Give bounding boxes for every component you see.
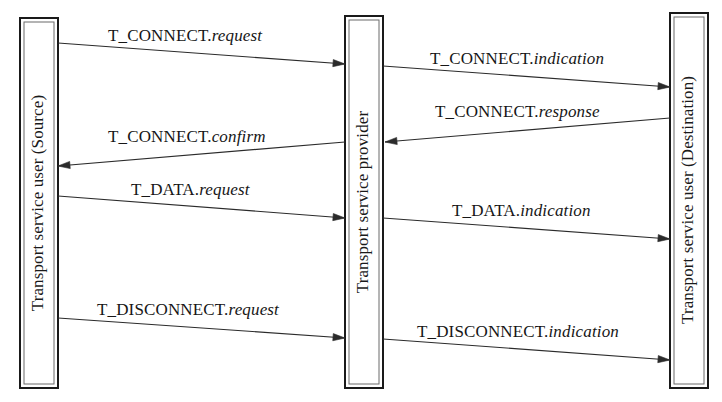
message-arrowhead-t-data-request — [333, 213, 345, 220]
message-label-t-connect-indication: T_CONNECT.indication — [430, 50, 604, 67]
message-t-disconnect-indication — [383, 339, 670, 363]
message-arrowhead-t-data-indication — [658, 235, 670, 242]
message-t-data-request — [58, 196, 345, 221]
message-primitive-t-connect-response: T_CONNECT. — [435, 102, 539, 121]
message-label-t-connect-confirm: T_CONNECT.confirm — [108, 128, 266, 145]
message-label-t-connect-request: T_CONNECT.request — [108, 27, 262, 44]
entity-source-label: Transport service user (Source) — [28, 95, 47, 311]
message-primitive-t-data-request: T_DATA. — [131, 180, 199, 199]
message-primitive-t-data-indication: T_DATA. — [452, 201, 520, 220]
message-arrowhead-t-disconnect-indication — [658, 356, 670, 363]
message-label-t-data-request: T_DATA.request — [131, 181, 250, 198]
message-t-data-indication — [383, 218, 670, 242]
message-label-t-disconnect-indication: T_DISCONNECT.indication — [417, 323, 619, 340]
message-line-t-connect-request — [58, 43, 345, 64]
message-line-t-data-indication — [383, 218, 670, 239]
message-parameter-t-connect-confirm: confirm — [212, 127, 266, 146]
message-parameter-t-connect-request: request — [212, 26, 262, 45]
message-primitive-t-connect-request: T_CONNECT. — [108, 26, 212, 45]
message-t-disconnect-request — [58, 318, 345, 341]
message-primitive-t-connect-indication: T_CONNECT. — [430, 49, 534, 68]
message-parameter-t-disconnect-request: request — [229, 300, 279, 319]
message-line-t-connect-indication — [383, 66, 670, 87]
message-line-t-data-request — [58, 196, 345, 218]
message-parameter-t-connect-response: response — [539, 102, 600, 121]
message-primitive-t-disconnect-indication: T_DISCONNECT. — [417, 322, 549, 341]
message-t-connect-request — [58, 43, 345, 67]
entity-destination-label: Transport service user (Destination) — [678, 76, 697, 324]
message-arrowhead-t-disconnect-request — [333, 334, 345, 341]
diagram-canvas: Transport service user (Source) Transpor… — [0, 0, 722, 402]
message-primitive-t-disconnect-request: T_DISCONNECT. — [97, 300, 229, 319]
message-line-t-connect-response — [385, 118, 670, 142]
message-t-connect-response — [385, 118, 670, 145]
message-parameter-t-disconnect-indication: indication — [549, 322, 619, 341]
message-arrowhead-t-connect-confirm — [58, 161, 70, 168]
entity-destination: Transport service user (Destination) — [670, 13, 708, 388]
message-parameter-t-data-request: request — [199, 180, 249, 199]
message-label-t-connect-response: T_CONNECT.response — [435, 103, 600, 120]
message-label-t-disconnect-request: T_DISCONNECT.request — [97, 301, 279, 318]
message-parameter-t-connect-indication: indication — [534, 49, 604, 68]
message-primitive-t-connect-confirm: T_CONNECT. — [108, 127, 212, 146]
entity-source: Transport service user (Source) — [20, 18, 58, 388]
message-arrowhead-t-connect-request — [333, 60, 345, 67]
message-parameter-t-data-indication: indication — [520, 201, 590, 220]
message-arrowhead-t-connect-response — [385, 137, 397, 144]
message-line-t-disconnect-indication — [383, 339, 670, 360]
message-line-t-disconnect-request — [58, 318, 345, 338]
message-arrowhead-t-connect-indication — [658, 83, 670, 90]
message-label-t-data-indication: T_DATA.indication — [452, 202, 591, 219]
sequence-diagram: Transport service user (Source) Transpor… — [0, 0, 722, 402]
entity-provider: Transport service provider — [345, 16, 383, 388]
entity-provider-label: Transport service provider — [353, 111, 372, 294]
message-t-connect-indication — [383, 66, 670, 90]
